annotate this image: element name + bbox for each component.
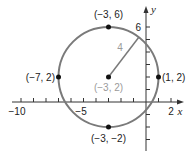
plot-canvas: (−3, 6) (−7, 2) (1, 2) (−3, −2) (−3, 2) …	[0, 0, 188, 151]
label-top-point: (−3, 6)	[94, 9, 123, 20]
point-center	[106, 75, 111, 80]
label-radius: 4	[117, 42, 123, 53]
point-bottom	[106, 125, 111, 130]
tick-label-2: 2	[168, 106, 174, 117]
tick-label-neg5: −5	[75, 106, 87, 117]
label-center-point: (−3, 2)	[94, 82, 123, 93]
radius-line	[109, 37, 140, 77]
label-left-point: (−7, 2)	[26, 72, 55, 83]
point-top	[106, 25, 111, 30]
label-right-point: (1, 2)	[162, 72, 185, 83]
point-left	[56, 75, 61, 80]
circle-graph: (−3, 6) (−7, 2) (1, 2) (−3, −2) (−3, 2) …	[0, 0, 188, 151]
x-axis-arrow-icon	[177, 100, 184, 105]
tick-label-6: 6	[135, 22, 141, 33]
y-axis-label: y	[150, 3, 156, 15]
point-right	[156, 75, 161, 80]
x-axis-label: x	[177, 105, 183, 117]
x-ticks	[21, 98, 171, 102]
y-axis-arrow-icon	[144, 6, 149, 13]
tick-label-neg10: −10	[9, 106, 26, 117]
label-bottom-point: (−3, −2)	[91, 133, 126, 144]
